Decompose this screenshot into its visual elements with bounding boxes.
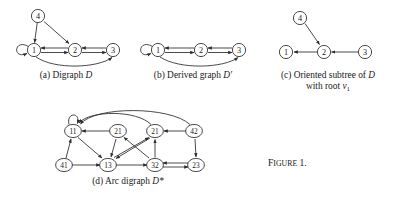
edge-41-to-11 bbox=[66, 139, 71, 158]
caption-panel-a: (a) Digraph D bbox=[8, 70, 124, 81]
node-4: 4 bbox=[293, 11, 306, 24]
node-label: 3 bbox=[111, 46, 115, 55]
node-1: 1 bbox=[279, 45, 292, 58]
node-label: 13 bbox=[104, 161, 112, 170]
node-label: 3 bbox=[363, 48, 367, 57]
edge-4-to-2 bbox=[44, 22, 69, 44]
panel-a-nodes: 1 2 3 4 bbox=[27, 9, 119, 56]
node-label: 23 bbox=[192, 161, 200, 170]
node-42: 42 bbox=[186, 124, 203, 137]
caption-text: Arc digraph bbox=[105, 176, 150, 186]
node-3: 3 bbox=[232, 43, 245, 56]
node-2: 2 bbox=[194, 43, 207, 56]
node-1: 1 bbox=[27, 43, 40, 56]
caption-symbol: D′ bbox=[223, 70, 232, 80]
caption-tag: (c) bbox=[281, 70, 291, 80]
edge-21a-to-13 bbox=[111, 139, 116, 157]
caption-panel-d: (d) Arc digraph D* bbox=[48, 176, 208, 187]
node-label: 21 bbox=[114, 127, 122, 136]
node-label: 32 bbox=[151, 161, 159, 170]
edge-4-to-2 bbox=[305, 24, 320, 45]
node-label: 3 bbox=[237, 46, 241, 55]
edge-loop-11 bbox=[69, 115, 78, 125]
node-label: 2 bbox=[73, 46, 77, 55]
caption-tag: (d) bbox=[92, 176, 103, 186]
edge-11-to-13 bbox=[78, 138, 102, 159]
node-13: 13 bbox=[100, 158, 117, 171]
caption-panel-c: (c) Oriented subtree of D with root v1 bbox=[258, 70, 398, 93]
figure-number: FIGURE 1. bbox=[268, 157, 307, 168]
caption-symbol: D* bbox=[152, 176, 163, 186]
panel-c-oriented-subtree: 1 2 3 4 bbox=[258, 0, 402, 68]
panel-b-nodes: 1 2 3 bbox=[151, 43, 245, 56]
caption-tag: (a) bbox=[40, 70, 50, 80]
edge-21b-to-11-arc bbox=[79, 113, 151, 124]
caption-symbol: D bbox=[86, 70, 93, 80]
node-3: 3 bbox=[106, 43, 119, 56]
edge-4-to-1 bbox=[35, 23, 38, 43]
node-11: 11 bbox=[65, 124, 82, 137]
node-4: 4 bbox=[31, 9, 44, 22]
panel-c-nodes: 1 2 3 4 bbox=[279, 11, 371, 58]
node-32: 32 bbox=[147, 158, 164, 171]
node-23: 23 bbox=[188, 158, 205, 171]
node-label: 1 bbox=[284, 48, 288, 57]
edge-loop-1 bbox=[17, 45, 29, 55]
caption-line2-text: with root bbox=[306, 81, 342, 91]
node-label: 11 bbox=[69, 127, 76, 136]
node-label: 1 bbox=[32, 46, 36, 55]
edge-loop-1 bbox=[141, 45, 153, 55]
edge-1-to-3-arc bbox=[160, 57, 238, 66]
node-21-a: 21 bbox=[110, 124, 127, 137]
caption-panel-b: (b) Derived graph D′ bbox=[130, 70, 256, 81]
panel-b-derived-graph: 1 2 3 bbox=[130, 0, 260, 68]
caption-line2-subscript: 1 bbox=[347, 85, 351, 93]
node-label: 2 bbox=[322, 48, 326, 57]
node-label: 2 bbox=[199, 46, 203, 55]
edge-13-to-21b bbox=[114, 138, 149, 158]
node-2: 2 bbox=[68, 43, 81, 56]
edge-42-to-23 bbox=[195, 139, 196, 157]
node-1: 1 bbox=[151, 43, 164, 56]
caption-line-2: with root v1 bbox=[258, 81, 398, 93]
caption-text: Derived graph bbox=[167, 70, 221, 80]
caption-text: Digraph bbox=[52, 70, 83, 80]
node-3: 3 bbox=[358, 45, 371, 58]
figure-number-value: 1. bbox=[297, 157, 307, 168]
node-label: 21 bbox=[151, 127, 159, 136]
node-label: 42 bbox=[190, 127, 198, 136]
figure-container: 1 2 3 4 (a) Digraph D bbox=[0, 0, 402, 201]
caption-line-1: (c) Oriented subtree of D bbox=[258, 70, 398, 81]
figure-number-word: IGURE bbox=[273, 159, 297, 168]
panel-d-arc-digraph: 11 21 21 42 41 13 bbox=[40, 100, 220, 178]
node-label: 1 bbox=[156, 46, 160, 55]
node-41: 41 bbox=[56, 158, 73, 171]
panel-a-digraph: 1 2 3 4 bbox=[0, 0, 130, 68]
edge-42-to-11-arc bbox=[81, 111, 191, 125]
node-2: 2 bbox=[317, 45, 330, 58]
panel-d-edges bbox=[66, 111, 196, 167]
caption-text: Oriented subtree of bbox=[294, 70, 366, 80]
node-label: 41 bbox=[60, 161, 68, 170]
node-label: 4 bbox=[36, 12, 40, 21]
caption-symbol: D bbox=[368, 70, 375, 80]
edge-1-to-3-arc bbox=[36, 57, 112, 66]
edge-21b-to-13 bbox=[116, 138, 150, 159]
node-21-b: 21 bbox=[147, 124, 164, 137]
node-label: 4 bbox=[298, 14, 302, 23]
caption-tag: (b) bbox=[154, 70, 165, 80]
